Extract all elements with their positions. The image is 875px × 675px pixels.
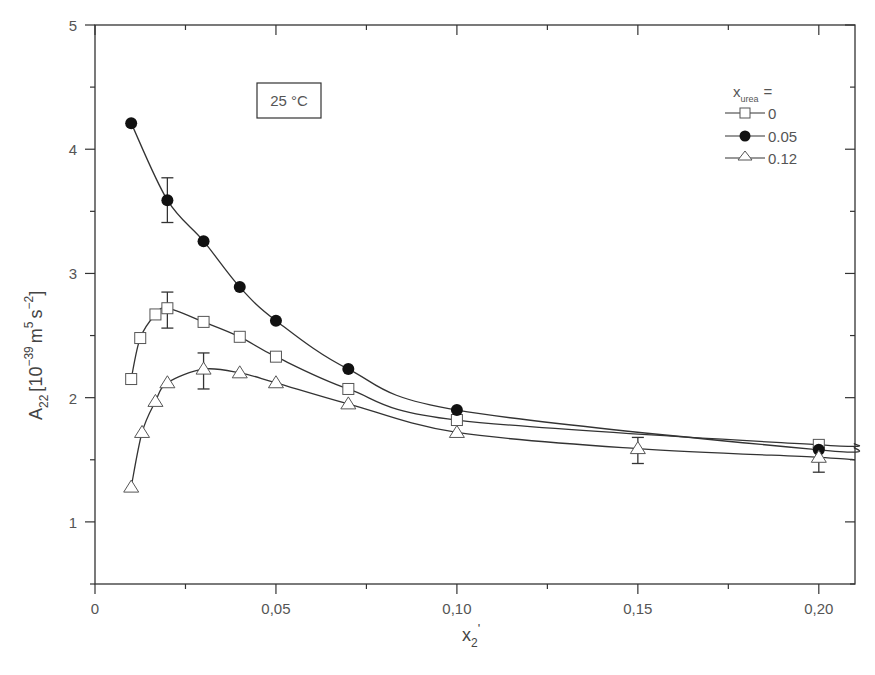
error-bars bbox=[161, 178, 824, 472]
y-title-main: A bbox=[26, 408, 46, 420]
svg-text:0.12: 0.12 bbox=[768, 150, 797, 167]
open-triangle-marker bbox=[160, 376, 175, 388]
x-tick-label: 0 bbox=[91, 600, 99, 617]
open-triangle-marker bbox=[135, 425, 150, 437]
fit-curves bbox=[131, 123, 859, 487]
legend: xurea= 0 0.05 0.12 bbox=[725, 83, 797, 167]
legend-entry-2: 0.12 bbox=[725, 150, 797, 167]
open-triangle-marker bbox=[148, 394, 163, 406]
open-square-marker bbox=[343, 383, 354, 394]
y-title-close: ] bbox=[26, 291, 46, 296]
filled-circle-icon bbox=[740, 131, 751, 142]
data-markers bbox=[124, 117, 827, 492]
open-square-marker bbox=[162, 303, 173, 314]
legend-entry-1: 0.05 bbox=[725, 128, 797, 145]
x-tick-label: 0,05 bbox=[261, 600, 290, 617]
y-title-exp2: 5 bbox=[22, 321, 36, 328]
annotation-box: 25 °C bbox=[257, 83, 321, 118]
y-title-sub: 22 bbox=[37, 394, 51, 408]
x-tick-label: 0,20 bbox=[804, 600, 833, 617]
open-square-marker bbox=[126, 374, 137, 385]
y-tick-label: 1 bbox=[69, 514, 77, 531]
open-square-marker bbox=[270, 351, 281, 362]
open-square-marker bbox=[150, 309, 161, 320]
filled-circle-marker bbox=[270, 315, 282, 327]
open-square-marker bbox=[234, 331, 245, 342]
y-tick-label: 2 bbox=[69, 390, 77, 407]
x-axis-title: x2' bbox=[462, 621, 480, 650]
filled-circle-marker bbox=[198, 235, 210, 247]
y-title-s: s bbox=[26, 310, 46, 319]
x-tick-label: 0,15 bbox=[623, 600, 652, 617]
y-tick-labels: 12345 bbox=[69, 17, 77, 531]
chart: 00,050,100,150,20 12345 25 °C x2' A22[10… bbox=[0, 0, 875, 675]
open-square-marker bbox=[135, 333, 146, 344]
y-title-m: m bbox=[26, 328, 46, 343]
svg-text:A22[10−39m5s−2]: A22[10−39m5s−2] bbox=[22, 291, 51, 420]
filled-circle-marker bbox=[451, 404, 463, 416]
open-triangle-icon bbox=[738, 151, 752, 160]
y-title-open: [10 bbox=[26, 367, 46, 392]
filled-circle-marker bbox=[125, 117, 137, 129]
filled-circle-marker bbox=[234, 281, 246, 293]
x-tick-labels: 00,050,100,150,20 bbox=[91, 600, 834, 617]
legend-title: xurea= bbox=[733, 83, 773, 104]
x-axis-title-sub: 2 bbox=[471, 636, 478, 650]
svg-text:0: 0 bbox=[768, 105, 776, 122]
y-tick-label: 3 bbox=[69, 265, 77, 282]
annotation-text: 25 °C bbox=[270, 92, 308, 109]
svg-text:x2': x2' bbox=[462, 621, 480, 650]
open-square-icon bbox=[740, 108, 750, 118]
open-square-marker bbox=[198, 316, 209, 327]
fit-curve-0.12 bbox=[131, 369, 855, 487]
filled-circle-marker bbox=[161, 194, 173, 206]
y-axis-title: A22[10−39m5s−2] bbox=[22, 291, 51, 420]
legend-entry-0: 0 bbox=[725, 105, 776, 122]
x-axis-title-prime: ' bbox=[478, 621, 480, 636]
open-square-marker bbox=[451, 415, 462, 426]
y-tick-label: 5 bbox=[69, 17, 77, 34]
open-triangle-marker bbox=[124, 480, 139, 492]
y-title-exp3: −2 bbox=[22, 296, 36, 310]
y-title-exp1: −39 bbox=[22, 346, 36, 367]
filled-circle-marker bbox=[342, 363, 354, 375]
x-axis-title-main: x bbox=[462, 625, 471, 645]
svg-text:0.05: 0.05 bbox=[768, 128, 797, 145]
y-tick-label: 4 bbox=[69, 141, 77, 158]
x-tick-label: 0,10 bbox=[442, 600, 471, 617]
